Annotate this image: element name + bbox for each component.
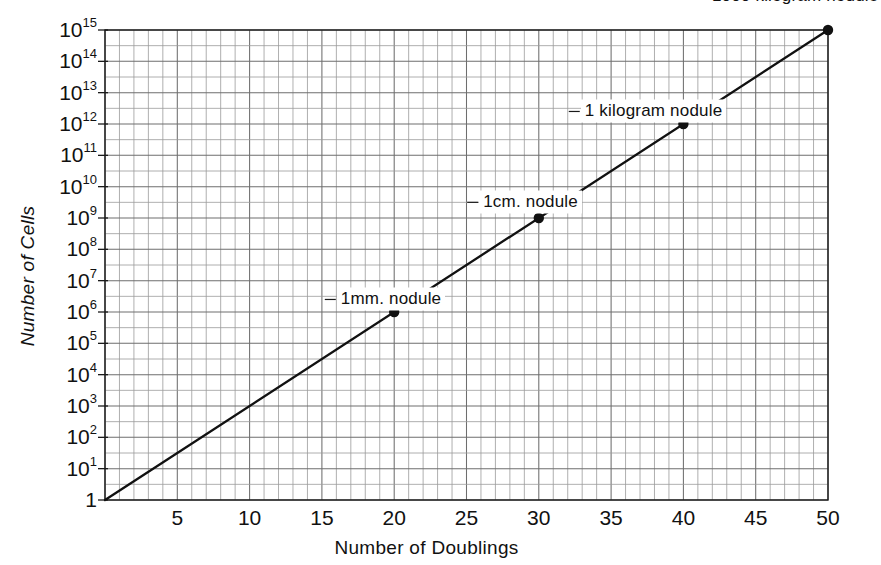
y-tick-mantissa: 10 — [66, 300, 89, 323]
y-tick-exponent: 5 — [90, 328, 97, 343]
y-axis-tick-label: 1014 — [35, 49, 97, 73]
y-tick-mantissa: 10 — [66, 331, 89, 354]
y-axis-tick-label: 1 — [35, 488, 97, 512]
x-axis-tick-label: 40 — [661, 506, 705, 530]
y-axis-tick-label: 102 — [35, 425, 97, 449]
y-tick-exponent: 12 — [83, 109, 97, 124]
x-axis-tick-label: 35 — [589, 506, 633, 530]
x-axis-tick-label: 10 — [228, 506, 272, 530]
y-tick-mantissa: 10 — [59, 49, 82, 72]
y-tick-exponent: 15 — [83, 15, 97, 30]
data-point-marker — [823, 25, 833, 35]
y-tick-exponent: 11 — [84, 140, 98, 155]
y-tick-mantissa: 10 — [66, 394, 89, 417]
x-axis-tick-label: 45 — [734, 506, 778, 530]
x-axis-tick-label: 25 — [445, 506, 489, 530]
point-annotation-label: 1mm. nodule — [337, 288, 445, 311]
y-axis-tick-label: 107 — [35, 269, 97, 293]
y-axis-tick-label: 1015 — [35, 18, 97, 42]
y-tick-mantissa: 10 — [66, 363, 89, 386]
y-axis-tick-label: 106 — [35, 300, 97, 324]
y-tick-exponent: 1 — [90, 454, 97, 469]
y-tick-exponent: 13 — [83, 78, 97, 93]
y-axis-tick-label: 101 — [35, 457, 97, 481]
x-axis-tick-label: 5 — [155, 506, 199, 530]
y-axis-tick-label: 105 — [35, 331, 97, 355]
x-axis-tick-label: 30 — [517, 506, 561, 530]
y-axis-tick-label: 1011 — [35, 143, 97, 167]
y-tick-mantissa: 10 — [66, 206, 89, 229]
y-axis-tick-label: 1010 — [35, 175, 97, 199]
y-tick-mantissa: 10 — [59, 18, 82, 41]
point-annotation-label: 1cm. nodule — [479, 191, 582, 214]
y-tick-mantissa: 10 — [66, 237, 89, 260]
y-tick-mantissa: 10 — [66, 457, 89, 480]
y-axis-tick-label: 1013 — [35, 81, 97, 105]
y-tick-mantissa: 1 — [85, 488, 97, 511]
data-point-marker — [534, 213, 544, 223]
y-tick-mantissa: 10 — [66, 425, 89, 448]
y-tick-exponent: 7 — [90, 266, 97, 281]
point-annotation-label: 1000 kilogram nodule — [708, 0, 881, 7]
y-axis-tick-label: 1012 — [35, 112, 97, 136]
y-axis-tick-label: 109 — [35, 206, 97, 230]
y-tick-mantissa: 10 — [66, 269, 89, 292]
y-tick-exponent: 4 — [90, 360, 97, 375]
y-tick-exponent: 10 — [83, 172, 97, 187]
y-tick-exponent: 14 — [83, 46, 97, 61]
x-axis-tick-label: 50 — [806, 506, 850, 530]
y-tick-mantissa: 10 — [59, 112, 82, 135]
y-tick-exponent: 6 — [90, 297, 97, 312]
y-axis-tick-label: 103 — [35, 394, 97, 418]
y-axis-title: Number of Cells — [17, 156, 39, 396]
x-axis-tick-label: 15 — [300, 506, 344, 530]
y-tick-exponent: 9 — [90, 203, 97, 218]
y-tick-mantissa: 10 — [60, 143, 83, 166]
y-axis-tick-label: 104 — [35, 363, 97, 387]
y-tick-mantissa: 10 — [59, 81, 82, 104]
y-axis-tick-label: 108 — [35, 237, 97, 261]
y-tick-exponent: 3 — [90, 391, 97, 406]
y-tick-mantissa: 10 — [59, 175, 82, 198]
y-tick-exponent: 8 — [90, 234, 97, 249]
point-annotation-label: 1 kilogram nodule — [581, 100, 727, 123]
y-tick-exponent: 2 — [90, 422, 97, 437]
x-axis-tick-label: 20 — [372, 506, 416, 530]
x-axis-title: Number of Doublings — [0, 537, 853, 559]
